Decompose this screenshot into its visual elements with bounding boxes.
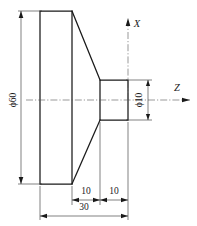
- dim10b-label: 10: [109, 186, 119, 196]
- drawing-svg: ϕ60 ϕ10 X Z: [0, 0, 197, 226]
- phi60-arrow-top: [19, 11, 24, 18]
- dim30-arrow-right: [121, 214, 128, 218]
- dim30-label: 30: [79, 202, 89, 212]
- dim10a-arrow-right: [93, 198, 100, 202]
- phi10-arrow-bottom: [146, 114, 150, 120]
- dim30-arrow-left: [40, 214, 47, 218]
- phi10-arrow-top: [146, 80, 150, 86]
- x-axis-arrow: [126, 18, 131, 26]
- technical-drawing-canvas: ϕ60 ϕ10 X Z: [0, 0, 197, 226]
- z-axis-arrow: [182, 98, 190, 103]
- dim10a-arrow-left: [72, 198, 79, 202]
- cone-upper-taper: [72, 11, 100, 80]
- dim10b-arrow-left: [100, 198, 107, 202]
- flange-diameter-dimension: ϕ60: [8, 11, 42, 184]
- dim10b-arrow-right: [121, 198, 128, 202]
- cone-length-dimension: 10: [72, 186, 100, 202]
- phi60-label: ϕ60: [8, 93, 18, 108]
- cylinder-length-dimension: 10: [100, 186, 128, 202]
- flange-outline: [40, 11, 72, 184]
- z-axis-label: Z: [174, 82, 180, 93]
- z-axis-group: Z: [174, 82, 190, 102]
- cone-lower-taper: [72, 120, 100, 184]
- phi10-label: ϕ10: [134, 93, 144, 108]
- dim10a-label: 10: [81, 186, 91, 196]
- x-axis-group: X: [126, 18, 141, 100]
- phi60-arrow-bottom: [19, 177, 24, 184]
- total-length-dimension: 30: [40, 202, 128, 218]
- part-outline-group: [40, 11, 128, 184]
- x-axis-label: X: [133, 18, 141, 29]
